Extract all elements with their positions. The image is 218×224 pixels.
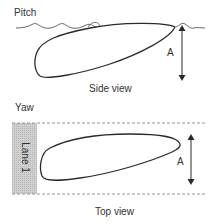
water-surface-wave [16,23,205,28]
side-amplitude-label: A [167,47,174,58]
pitch-label: Pitch [14,7,36,18]
top-amplitude-label: A [177,156,184,167]
yaw-label: Yaw [15,102,34,113]
side-view-caption: Side view [89,83,132,94]
arrow-down-icon [179,75,186,81]
lane-1-label: Lane 1 [20,139,31,177]
arrow-up-icon [188,134,195,140]
top-view-body-outline [41,134,181,180]
arrow-up-icon [179,25,186,31]
side-view-body-outline [35,23,175,77]
arrow-down-icon [188,179,195,185]
top-view-caption: Top view [95,206,134,217]
